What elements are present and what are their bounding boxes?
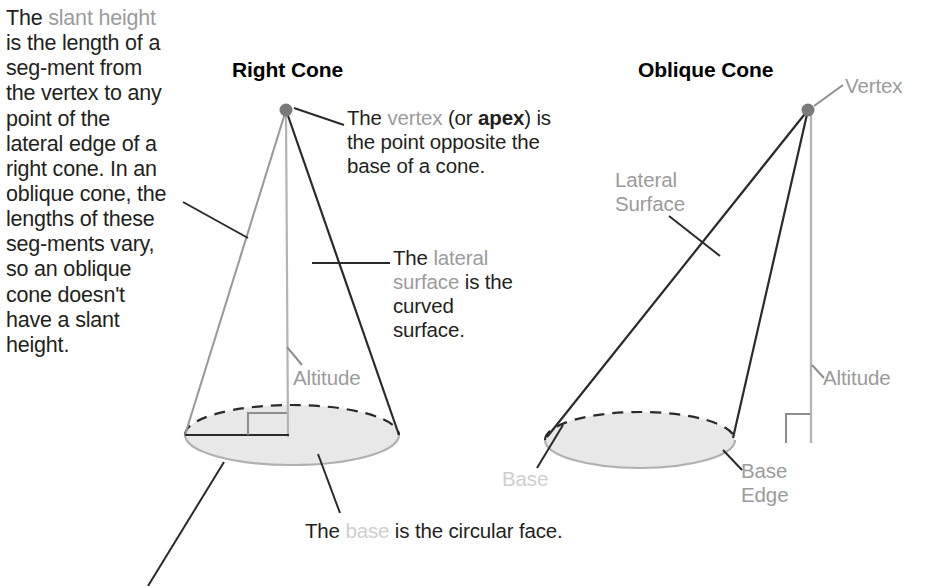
slant-height-keyword: slant height — [48, 6, 156, 30]
oblique-cone-base-label: Base — [502, 467, 548, 491]
right-cone-heading: Right Cone — [232, 58, 343, 83]
apex-keyword: apex — [478, 106, 524, 129]
oblique-cone-altitude-label: Altitude — [823, 366, 891, 390]
right-cone-altitude-leader — [287, 347, 302, 365]
lateral-surface-callout: The lateral surface is the curved surfac… — [393, 246, 513, 342]
base-callout-post: is the circular face. — [389, 519, 562, 542]
base-keyword: base — [345, 519, 389, 542]
oblique-cone-right-angle-mark — [786, 414, 810, 443]
oblique-cone-left-lateral-edge — [547, 110, 808, 437]
vertex-callout-pre: The — [347, 106, 387, 129]
oblique-cone-vertex-leader — [814, 85, 843, 106]
oblique-cone-group — [537, 85, 843, 470]
cone-diagram-stage: The slant height is the length of a seg‑… — [0, 0, 931, 586]
oblique-cone-lateral-surface-label: LateralSurface — [615, 168, 725, 216]
slant-height-leader — [183, 202, 248, 238]
vertex-callout-mid: (or — [442, 106, 478, 129]
oblique-lateral-line2: Surface — [615, 192, 685, 215]
lateral-callout-pre: The — [393, 246, 433, 269]
oblique-base-edge-line2: Edge — [741, 483, 788, 506]
base-callout-pre: The — [305, 519, 345, 542]
oblique-lateral-line1: Lateral — [615, 168, 677, 191]
oblique-cone-apex-dot — [802, 104, 815, 117]
oblique-cone-vertex-label: Vertex — [845, 74, 903, 98]
right-cone-base-lower-leader — [148, 462, 224, 586]
right-cone-altitude-label: Altitude — [293, 366, 361, 390]
vertex-callout: The vertex (or apex) is the point opposi… — [347, 106, 557, 178]
oblique-cone-lateral-leader — [669, 216, 720, 256]
right-cone-altitude-line — [286, 110, 288, 437]
right-cone-vertex-leader — [294, 108, 344, 125]
slant-height-note-pre: The — [6, 6, 48, 30]
oblique-cone-base-edge-leader — [723, 450, 742, 470]
slant-height-note: The slant height is the length of a seg‑… — [6, 6, 171, 358]
right-cone-left-lateral-edge — [185, 110, 286, 435]
slant-height-note-post: is the length of a seg‑ment from the ver… — [6, 6, 172, 357]
right-cone-apex-dot — [280, 104, 293, 117]
vertex-keyword: vertex — [387, 106, 442, 129]
oblique-cone-base-edge-label: BaseEdge — [741, 459, 811, 507]
base-callout: The base is the circular face. — [305, 519, 615, 543]
oblique-base-edge-line1: Base — [741, 459, 787, 482]
oblique-cone-heading: Oblique Cone — [638, 58, 773, 83]
oblique-cone-right-lateral-edge — [733, 110, 808, 438]
